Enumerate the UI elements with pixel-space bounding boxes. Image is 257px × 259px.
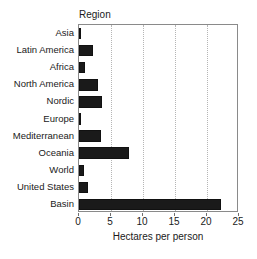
bar [79,165,84,177]
bar-row [79,96,237,108]
category-label: Asia [0,27,74,38]
bar-row [79,79,237,91]
x-axis-ticks: 0510152025 [0,213,257,229]
bar [79,130,101,142]
x-tick-label: 20 [200,216,211,228]
category-axis-labels: AsiaLatin AmericaAfricaNorth AmericaNord… [0,24,74,212]
bar-row [79,45,237,57]
bar-row [79,199,237,211]
bar [79,62,85,74]
bar-row [79,182,237,194]
category-label: Latin America [0,44,74,55]
category-label: United States [0,181,74,192]
bar-row [79,130,237,142]
category-label: Oceania [0,147,74,158]
bar [79,113,81,125]
bar-row [79,62,237,74]
group-header-region: Region [79,9,111,21]
category-label: Africa [0,61,74,72]
x-axis-title: Hectares per person [78,231,238,243]
x-tick-label: 25 [232,216,243,228]
bar [79,199,221,211]
x-tick-label: 5 [107,216,113,228]
x-tick-label: 10 [136,216,147,228]
bar-row [79,113,237,125]
bar-row [79,147,237,159]
bar [79,182,88,194]
bar-series [79,25,237,211]
x-tick-label: 0 [75,216,81,228]
category-label: North America [0,78,74,89]
bar-row [79,28,237,40]
category-label: Mediterranean [0,130,74,141]
category-label: Basin [0,198,74,209]
category-label: World [0,164,74,175]
bar-row [79,165,237,177]
bar [79,96,102,108]
x-tick-label: 15 [168,216,179,228]
bar [79,28,81,40]
category-label: Europe [0,113,74,124]
bar [79,147,129,159]
bar-chart: Region AsiaLatin AmericaAfricaNorth Amer… [0,0,257,259]
plot-area [78,24,238,212]
bar [79,45,93,57]
category-label: Nordic [0,95,74,106]
bar [79,79,98,91]
